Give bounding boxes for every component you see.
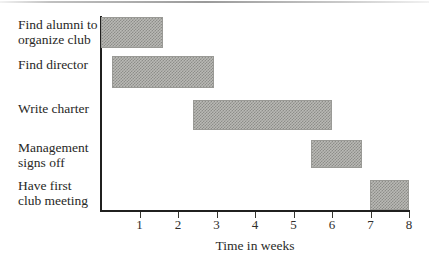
- task-label-5: Have first club meeting: [18, 178, 100, 208]
- x-tick-label: 4: [246, 217, 264, 233]
- task-label-5-line1: Have first: [18, 178, 100, 193]
- task-label-4: Management signs off: [18, 140, 100, 170]
- task-label-1-line1: Find alumni to: [18, 17, 100, 32]
- gantt-chart: Find alumni to organize club Find direct…: [0, 0, 429, 278]
- task-label-2: Find director: [18, 57, 100, 72]
- x-tick-label: 6: [323, 217, 341, 233]
- x-tick-label: 8: [400, 217, 418, 233]
- task-label-3-line1: Write charter: [18, 101, 100, 116]
- task-label-3: Write charter: [18, 101, 100, 116]
- x-tick-label: 7: [362, 217, 380, 233]
- gantt-bar-3: [193, 100, 332, 130]
- task-label-1: Find alumni to organize club: [18, 17, 100, 47]
- x-axis-title: Time in weeks: [100, 238, 410, 254]
- task-label-4-line1: Management: [18, 140, 100, 155]
- task-label-4-line2: signs off: [18, 155, 100, 170]
- task-label-1-line2: organize club: [18, 32, 100, 47]
- x-tick-label: 1: [131, 217, 149, 233]
- gantt-bar-5: [370, 180, 409, 210]
- task-label-5-line2: club meeting: [18, 193, 100, 208]
- x-tick-label: 5: [285, 217, 303, 233]
- x-tick-label: 3: [208, 217, 226, 233]
- gantt-bar-2: [112, 56, 214, 88]
- task-label-2-line1: Find director: [18, 57, 100, 72]
- gantt-bar-4: [311, 140, 362, 168]
- x-tick-label: 2: [169, 217, 187, 233]
- gantt-bar-1: [101, 17, 163, 48]
